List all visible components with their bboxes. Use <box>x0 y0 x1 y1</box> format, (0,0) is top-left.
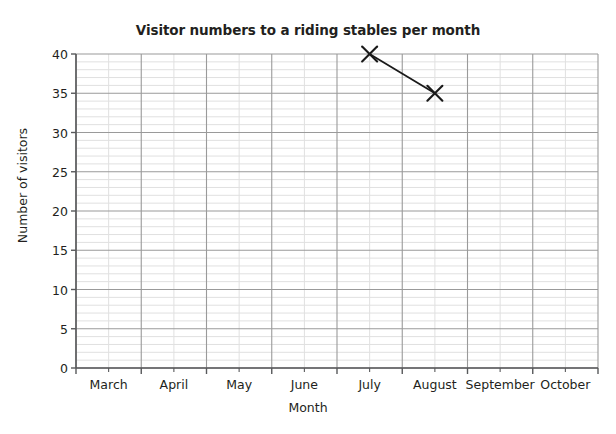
x-axis-title: Month <box>0 400 616 415</box>
x-tick-label: May <box>226 377 252 392</box>
y-tick-label: 10 <box>22 282 68 297</box>
x-tick-label: October <box>540 377 590 392</box>
y-axis-title: Number of visitors <box>15 96 30 276</box>
x-tick-label: September <box>466 377 535 392</box>
y-tick-label: 0 <box>22 361 68 376</box>
y-tick-label: 40 <box>22 47 68 62</box>
x-tick-label: April <box>160 377 189 392</box>
x-tick-label: July <box>358 377 380 392</box>
y-tick-label: 5 <box>22 321 68 336</box>
x-tick-label: March <box>90 377 128 392</box>
chart-axes <box>76 54 598 368</box>
x-tick-label: August <box>413 377 457 392</box>
chart-title: Visitor numbers to a riding stables per … <box>0 22 616 38</box>
chart-figure: Visitor numbers to a riding stables per … <box>0 0 616 434</box>
x-tick-label: June <box>291 377 318 392</box>
plot-area: 0510152025303540 MarchAprilMayJuneJulyAu… <box>76 54 598 368</box>
x-axis-ticks <box>76 368 598 374</box>
